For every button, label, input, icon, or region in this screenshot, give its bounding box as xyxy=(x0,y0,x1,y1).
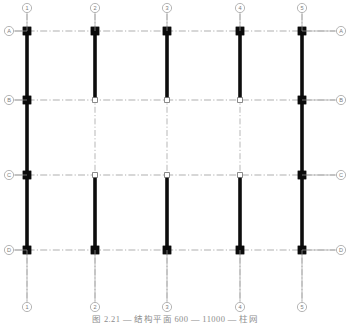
joint-nodes xyxy=(23,27,306,254)
grid-bubble-right-C: C xyxy=(302,170,346,179)
grid-bubble-right-B-label: B xyxy=(339,97,343,103)
grid-bubble-left-B-label: B xyxy=(7,97,11,103)
grid-bubble-left-C-label: C xyxy=(7,172,11,178)
grid-bubble-top-2-label: 2 xyxy=(93,5,96,11)
structural-drawing-canvas: 1234512345ABCDABCD 图 2.21 — 结构平面 600 — 1… xyxy=(0,0,350,325)
grid-bubble-top-3-label: 3 xyxy=(165,5,168,11)
grid-bubble-top-5-label: 5 xyxy=(300,5,303,11)
grid-bubble-bottom-4: 4 xyxy=(235,250,244,312)
grid-bubble-right-A-label: A xyxy=(339,28,343,34)
joint-node-hollow-4C xyxy=(238,173,243,178)
grid-bubble-bottom-5-label: 5 xyxy=(300,304,303,310)
grid-bubble-bottom-2-label: 2 xyxy=(93,304,96,310)
grid-bubble-bottom-4-label: 4 xyxy=(238,304,241,310)
grid-bubble-bottom-5: 5 xyxy=(297,250,306,312)
grid-bubble-bottom-3: 3 xyxy=(162,250,171,312)
column-members xyxy=(27,31,302,250)
grid-bubble-left-A-label: A xyxy=(7,28,11,34)
joint-node-hollow-3B xyxy=(165,98,170,103)
vertical-grid-lines xyxy=(27,14,302,301)
joint-node-hollow-2B xyxy=(93,98,98,103)
grid-bubble-bottom-1: 1 xyxy=(22,250,31,312)
grid-bubble-bottom-1-label: 1 xyxy=(25,304,28,310)
joint-node-hollow-3C xyxy=(165,173,170,178)
figure-caption: 图 2.21 — 结构平面 600 — 11000 — 柱网 xyxy=(0,314,350,325)
grid-bubble-right-D-label: D xyxy=(339,247,343,253)
horizontal-grid-lines xyxy=(15,31,335,250)
joint-node-hollow-4B xyxy=(238,98,243,103)
grid-bubble-right-C-label: C xyxy=(339,172,343,178)
joint-node-hollow-2C xyxy=(93,173,98,178)
frame-grid-svg: 1234512345ABCDABCD xyxy=(0,0,350,325)
grid-bubble-right-D: D xyxy=(302,245,346,254)
grid-bubble-bottom-2: 2 xyxy=(90,250,99,312)
grid-bubble-right-A: A xyxy=(302,26,346,35)
grid-bubbles: 1234512345ABCDABCD xyxy=(4,3,345,311)
grid-bubble-left-D-label: D xyxy=(7,247,11,253)
grid-bubble-top-4-label: 4 xyxy=(238,5,241,11)
grid-bubble-top-1-label: 1 xyxy=(25,5,28,11)
grid-bubble-right-B: B xyxy=(302,95,346,104)
grid-bubble-bottom-3-label: 3 xyxy=(165,304,168,310)
